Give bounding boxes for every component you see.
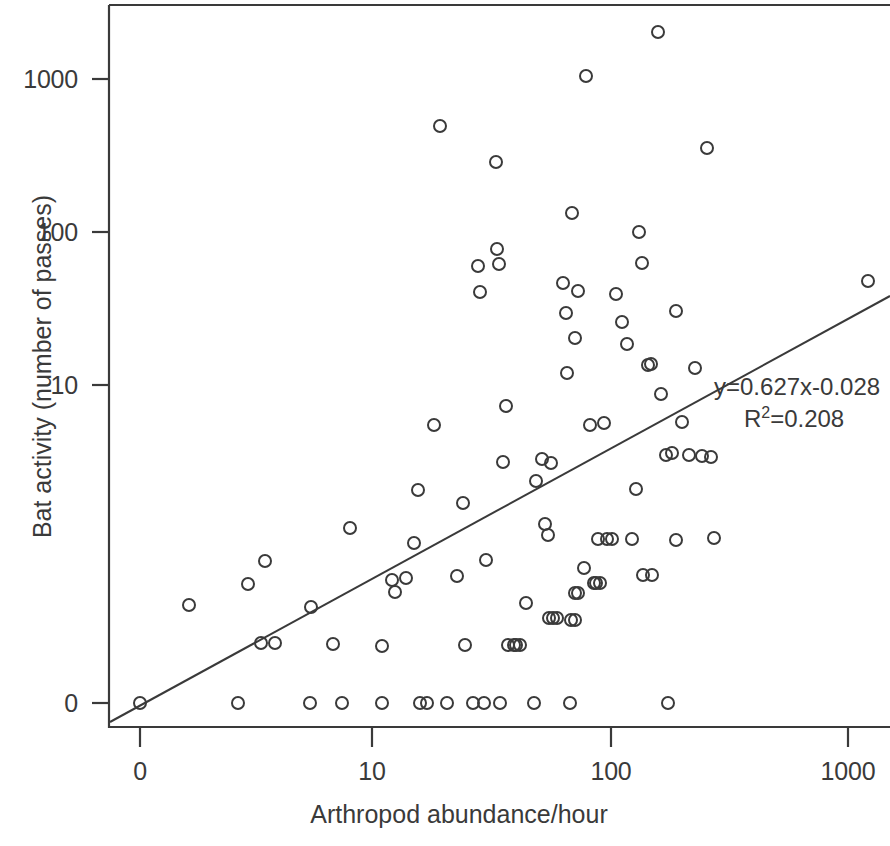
- data-point: [636, 257, 648, 269]
- data-point: [670, 305, 682, 317]
- scatter-plot-figure: 1000100100 0101001000 Bat activity (numb…: [0, 0, 890, 846]
- data-point: [242, 578, 254, 590]
- data-point: [412, 484, 424, 496]
- data-point: [530, 475, 542, 487]
- data-point: [480, 554, 492, 566]
- data-point: [441, 697, 453, 709]
- data-point: [598, 417, 610, 429]
- x-tick-label-100: 100: [590, 757, 631, 786]
- y-tick-label-1000: 1000: [23, 65, 78, 94]
- data-point: [459, 639, 471, 651]
- data-point: [569, 332, 581, 344]
- data-point: [560, 307, 572, 319]
- data-point: [386, 574, 398, 586]
- data-point: [572, 285, 584, 297]
- regression-annotation: y=0.627x-0.028 R2=0.208: [714, 372, 880, 434]
- data-point: [584, 419, 596, 431]
- regression-equation-text: y=0.627x-0.028: [714, 372, 880, 403]
- r-squared-symbol: R: [744, 405, 761, 432]
- y-tick-label-0: 0: [64, 689, 78, 718]
- data-point: [610, 288, 622, 300]
- data-point: [500, 400, 512, 412]
- regression-fit-line: [110, 296, 890, 722]
- data-point: [646, 569, 658, 581]
- data-point: [428, 419, 440, 431]
- data-point: [408, 537, 420, 549]
- x-tick-label-0: 0: [133, 757, 147, 786]
- data-point: [376, 697, 388, 709]
- regression-line: [110, 296, 890, 722]
- data-point: [520, 597, 532, 609]
- axes: [109, 5, 890, 727]
- data-point: [400, 572, 412, 584]
- data-point: [457, 497, 469, 509]
- data-point: [633, 226, 645, 238]
- data-point: [655, 388, 667, 400]
- data-point: [705, 451, 717, 463]
- data-point: [701, 142, 713, 154]
- data-point: [578, 562, 590, 574]
- data-point: [472, 260, 484, 272]
- data-point: [708, 532, 720, 544]
- data-point: [451, 570, 463, 582]
- data-point: [491, 243, 503, 255]
- data-point: [259, 555, 271, 567]
- data-point: [376, 640, 388, 652]
- data-point: [389, 586, 401, 598]
- data-point: [616, 316, 628, 328]
- data-point: [566, 207, 578, 219]
- data-point: [862, 275, 874, 287]
- data-point: [490, 156, 502, 168]
- data-point: [232, 697, 244, 709]
- data-point: [327, 638, 339, 650]
- data-point: [626, 533, 638, 545]
- y-axis-title: Bat activity (number of passes): [28, 157, 57, 577]
- data-point: [344, 522, 356, 534]
- data-point: [474, 286, 486, 298]
- data-point: [621, 338, 633, 350]
- data-point: [689, 362, 701, 374]
- data-point: [493, 258, 505, 270]
- data-point: [494, 697, 506, 709]
- data-point: [336, 697, 348, 709]
- r-squared-exponent: 2: [761, 404, 770, 421]
- x-tick-label-10: 10: [358, 757, 385, 786]
- data-point: [683, 449, 695, 461]
- data-point: [269, 637, 281, 649]
- data-point: [662, 697, 674, 709]
- plot-frame: [109, 5, 890, 727]
- r-squared-value: =0.208: [770, 405, 844, 432]
- r-squared-text: R2=0.208: [714, 403, 880, 435]
- data-point: [528, 697, 540, 709]
- data-point: [542, 529, 554, 541]
- data-point: [564, 697, 576, 709]
- data-point: [183, 599, 195, 611]
- x-axis-title: Arthropod abundance/hour: [109, 800, 809, 829]
- data-point: [670, 534, 682, 546]
- data-point: [434, 120, 446, 132]
- data-points: [134, 26, 874, 709]
- data-point: [676, 416, 688, 428]
- data-point: [561, 367, 573, 379]
- data-point: [652, 26, 664, 38]
- data-point: [497, 456, 509, 468]
- data-point: [304, 697, 316, 709]
- data-point: [630, 483, 642, 495]
- data-point: [557, 277, 569, 289]
- x-tick-label-1000: 1000: [821, 757, 876, 786]
- data-point: [580, 70, 592, 82]
